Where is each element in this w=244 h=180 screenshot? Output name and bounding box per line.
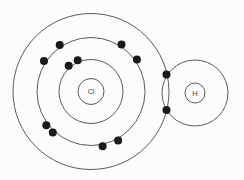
cl-electron-dot-9 — [99, 142, 107, 150]
h-nucleus-label: H — [192, 89, 197, 98]
hcl-bohr-diagram: ClH — [0, 0, 244, 180]
cl-electron-dot-3 — [40, 57, 48, 65]
cl-electron-dot-6 — [133, 55, 141, 63]
cl-electron-dot-1 — [65, 62, 73, 70]
cl-electron-dot-10 — [114, 137, 122, 145]
cl-electron-dot-4 — [56, 41, 64, 49]
cl-electron-dot-2 — [74, 56, 82, 64]
cl-electron-dot-5 — [118, 41, 126, 49]
shared-electron-dot-2 — [163, 106, 171, 114]
cl-electron-dot-7 — [42, 121, 50, 129]
shared-electron-dot-1 — [163, 71, 171, 79]
cl-electron-dot-8 — [49, 129, 57, 137]
diagram-canvas: ClH — [0, 0, 244, 180]
cl-nucleus-label: Cl — [88, 88, 95, 95]
